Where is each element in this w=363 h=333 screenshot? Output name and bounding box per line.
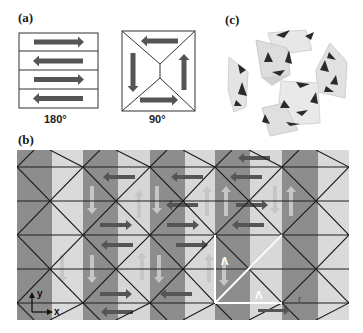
axis-y-label: y bbox=[37, 288, 43, 299]
axis-x-label: x bbox=[54, 306, 60, 317]
lambda-label-horizontal: Λ bbox=[255, 289, 262, 301]
r-label: r bbox=[298, 293, 302, 305]
stripe-lattice-diagram bbox=[0, 0, 363, 333]
lambda-label-vertical: Λ bbox=[221, 255, 228, 267]
